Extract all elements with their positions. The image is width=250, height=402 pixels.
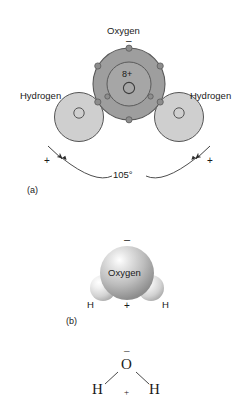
panel-a-oxygen-partial-negative: – xyxy=(126,36,132,46)
panel-a-tag: (a) xyxy=(27,186,38,195)
panel-a-bond-angle-label: 105° xyxy=(113,170,133,180)
water-molecule-figure: Oxygen – 8+ Hydrogen Hydrogen + + 105° (… xyxy=(0,0,250,402)
panel-a-oxygen-label: Oxygen xyxy=(107,26,140,36)
panel-c-hydrogen-left: H xyxy=(92,382,103,397)
panel-a-hydrogen-right-label: Hydrogen xyxy=(190,91,231,101)
panel-c-diagram xyxy=(105,372,149,384)
panel-b-hydrogen-right-label: H xyxy=(162,300,169,310)
panel-a-partial-positive-right: + xyxy=(207,156,213,166)
panel-a-nucleus-charge: 8+ xyxy=(122,70,132,79)
panel-c-oxygen-atom: O xyxy=(121,357,132,372)
panel-a-hydrogen-left-label: Hydrogen xyxy=(20,91,61,101)
panel-a-diagram xyxy=(48,45,210,178)
bond-angle-arc-left xyxy=(62,158,112,178)
panel-b-partial-negative: – xyxy=(124,234,130,245)
panel-c-hydrogen-right: H xyxy=(149,382,160,397)
panel-b-hydrogen-left-label: H xyxy=(87,300,94,310)
panel-c-partial-positive: + xyxy=(124,388,129,397)
panel-b-partial-positive: + xyxy=(124,301,130,311)
panel-b-tag: (b) xyxy=(66,317,77,326)
bond-angle-arc-right xyxy=(146,158,196,178)
panel-b-oxygen-label: Oxygen xyxy=(108,268,141,278)
panel-c-partial-negative: – xyxy=(124,345,130,356)
panel-a-partial-positive-left: + xyxy=(44,156,50,166)
figure-canvas xyxy=(0,0,250,402)
oxygen-atom xyxy=(93,45,165,123)
